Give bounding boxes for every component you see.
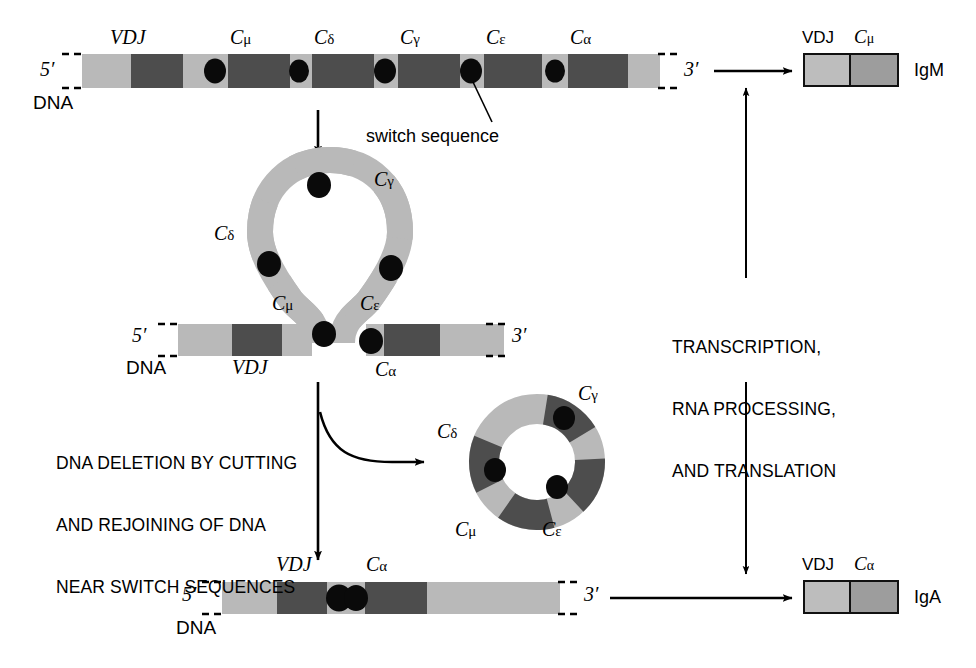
germline-label-c-gamma: Cγ <box>400 26 420 50</box>
loop-switch-dot-delta <box>257 251 281 277</box>
segment-vdj <box>131 54 183 88</box>
loop-label-c-gamma: Cγ <box>374 168 394 192</box>
iga-label: IgA <box>914 587 941 608</box>
iga-header-vdj: VDJ <box>802 555 834 575</box>
deletion-annotation-line-3: NEAR SWITCH SEQUENCES <box>56 577 297 598</box>
loop-label-c-alpha: Cα <box>375 358 396 382</box>
segment-c-mu <box>228 54 290 88</box>
circle-label-c-mu: Cμ <box>455 518 476 542</box>
deletion-annotation-line-1: DNA DELETION BY CUTTING <box>56 453 297 474</box>
circle-label-c-delta: Cδ <box>437 420 457 444</box>
loop-switch-dot-gamma <box>307 172 331 198</box>
germline-label-c-mu: Cμ <box>230 26 251 50</box>
iga-product-box <box>804 581 898 613</box>
switched-three-prime-label: 3′ <box>584 583 598 607</box>
transcription-annotation-line-3: AND TRANSLATION <box>672 461 836 482</box>
switch-dot-mu <box>204 59 226 84</box>
switch-dot-gamma <box>374 59 396 84</box>
iga-header-c-alpha: Cα <box>854 553 874 575</box>
igm-header-vdj: VDJ <box>802 28 834 48</box>
loop-segment-c-alpha <box>384 324 440 356</box>
switch-dot-alpha <box>545 60 565 83</box>
circle-label-c-gamma: Cγ <box>578 382 598 406</box>
switched-switch-dot-2 <box>344 585 368 611</box>
transcription-annotation-line-1: TRANSCRIPTION, <box>672 337 836 358</box>
switch-sequence-callout-label: switch sequence <box>366 126 499 147</box>
circle-switch-dot-gamma <box>553 406 575 430</box>
segment-c-delta <box>312 54 374 88</box>
deletion-annotation-line-2: AND REJOINING OF DNA <box>56 515 297 536</box>
germline-five-prime-label: 5′ <box>40 58 54 82</box>
excised-dna-circle <box>479 404 595 520</box>
germline-dna-bar <box>62 54 680 122</box>
deletion-annotation: DNA DELETION BY CUTTING AND REJOINING OF… <box>56 412 297 639</box>
igm-header-c-mu: Cμ <box>854 26 874 48</box>
switch-dot-delta <box>289 60 309 83</box>
loop-five-prime-label: 5′ <box>132 324 146 348</box>
loop-dna-label: DNA <box>126 357 166 379</box>
segment-c-alpha <box>568 54 628 88</box>
igm-label: IgM <box>914 60 944 81</box>
germline-label-c-epsilon: Cε <box>486 26 506 50</box>
looped-dna-structure <box>158 160 508 356</box>
class-switch-diagram: 5′ DNA 3′ VDJ Cμ Cδ Cγ Cε Cα switch sequ… <box>0 0 976 668</box>
loop-switch-dot-alpha <box>359 328 383 354</box>
transcription-annotation: TRANSCRIPTION, RNA PROCESSING, AND TRANS… <box>672 296 836 523</box>
transcription-annotation-line-2: RNA PROCESSING, <box>672 399 836 420</box>
segment-c-epsilon <box>484 54 542 88</box>
circle-switch-dot-mu <box>484 458 506 482</box>
germline-label-c-delta: Cδ <box>314 26 334 50</box>
germline-three-prime-label: 3′ <box>684 58 698 82</box>
circle-switch-dot-epsilon <box>546 475 568 499</box>
segment-c-gamma <box>398 54 460 88</box>
arrow-to-excised-circle <box>320 412 424 462</box>
loop-switch-dot-mu <box>312 321 336 347</box>
loop-label-c-epsilon: Cε <box>360 292 380 316</box>
switch-dot-epsilon <box>460 59 482 84</box>
loop-label-c-delta: Cδ <box>214 222 234 246</box>
switched-segment-c-alpha <box>365 582 427 614</box>
loop-label-c-mu: Cμ <box>272 292 293 316</box>
circle-label-c-epsilon: Cε <box>542 518 562 542</box>
germline-label-c-alpha: Cα <box>570 26 591 50</box>
loop-segment-vdj <box>232 324 282 356</box>
igm-product-box <box>804 54 898 86</box>
loop-three-prime-label: 3′ <box>512 324 526 348</box>
germline-dna-label: DNA <box>33 92 73 114</box>
switched-label-c-alpha: Cα <box>366 553 387 577</box>
loop-switch-dot-epsilon <box>379 255 403 281</box>
loop-label-vdj: VDJ <box>232 356 268 380</box>
germline-label-vdj: VDJ <box>110 26 146 50</box>
